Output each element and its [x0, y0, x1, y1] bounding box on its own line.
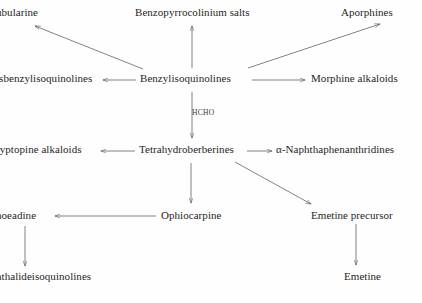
node-ophiocarpine: Ophiocarpine — [161, 209, 221, 222]
node-morphine-alkaloids: Morphine alkaloids — [311, 72, 398, 85]
node-tetrahydroberberines: Tetrahydroberberines — [139, 143, 234, 156]
node-emetine: Emetine — [344, 270, 381, 283]
node-rhoeadine: hoeadine — [0, 209, 36, 222]
node-benzylisoquinolines: Benzylisoquinolines — [140, 72, 231, 85]
node-aporphines: Aporphines — [341, 6, 393, 19]
pathway-diagram: ubularine Benzopyrrocolinium salts Aporp… — [0, 0, 422, 303]
node-bisbenzylisoquinolines: isbenzylisoquinolines — [0, 72, 92, 85]
node-phthalideisoquinolines: hthalideisoquinolines — [0, 270, 91, 283]
node-cryptopine-alkaloids: ryptopine alkaloids — [0, 143, 82, 156]
node-benzopyrrocolinium-salts: Benzopyrrocolinium salts — [135, 6, 250, 19]
node-alpha-naphthaphenanthridines: α-Naphthaphenanthridines — [276, 143, 394, 156]
node-emetine-precursor: Emetine precursor — [311, 209, 393, 222]
edge-benzylisoquinolines-tubocurarine — [35, 26, 143, 69]
edge-benzylisoquinolines-aporphines — [248, 24, 380, 68]
node-tubocurarine: ubularine — [0, 6, 38, 19]
edge-tetrahydroberberines-emetine-precursor — [235, 162, 311, 204]
edge-label-hcho: HCHO — [192, 108, 214, 117]
